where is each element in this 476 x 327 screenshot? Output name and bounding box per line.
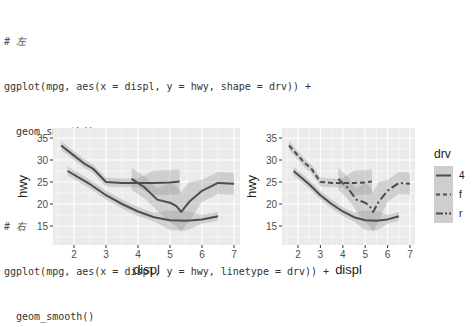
legend: drv4fr [434, 147, 465, 223]
y-tick-label: 25 [266, 177, 278, 188]
x-tick-label: 2 [71, 249, 77, 260]
x-axis-title: displ [335, 262, 362, 277]
x-tick-label: 4 [340, 249, 346, 260]
left-plot: 1520253035234567displhwy [15, 128, 240, 277]
x-tick-label: 2 [295, 249, 301, 260]
y-tick-label: 15 [37, 221, 49, 232]
code-line: geom_smooth() [4, 309, 329, 324]
y-tick-label: 15 [266, 221, 278, 232]
legend-label-f: f [459, 189, 462, 200]
y-tick-label: 30 [37, 155, 49, 166]
legend-label-r: r [459, 208, 463, 219]
y-axis-title: hwy [15, 174, 30, 198]
y-tick-label: 25 [37, 177, 49, 188]
x-tick-label: 5 [362, 249, 368, 260]
y-axis-title: hwy [244, 174, 259, 198]
x-tick-label: 3 [103, 249, 109, 260]
x-tick-label: 6 [385, 249, 391, 260]
y-tick-label: 20 [37, 199, 49, 210]
x-tick-label: 7 [407, 249, 413, 260]
y-tick-label: 35 [266, 133, 278, 144]
x-axis-title: displ [133, 262, 160, 277]
x-tick-label: 6 [199, 249, 205, 260]
legend-label-4: 4 [459, 170, 465, 181]
y-tick-label: 30 [266, 155, 278, 166]
x-tick-label: 7 [231, 249, 237, 260]
legend-title: drv [434, 147, 451, 161]
x-tick-label: 3 [318, 249, 324, 260]
y-tick-label: 35 [37, 133, 49, 144]
right-plot: 1520253035234567displhwy [244, 128, 415, 277]
x-tick-label: 5 [167, 249, 173, 260]
y-tick-label: 20 [266, 199, 278, 210]
x-tick-label: 4 [135, 249, 141, 260]
